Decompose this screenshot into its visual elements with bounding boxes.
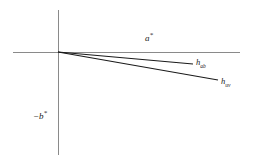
diagram-canvas [0,0,253,165]
hab-label: hab [196,58,206,67]
hue-angle-diagram: a* −b* hab huv [0,0,253,165]
hab-subscript: ab [200,63,206,69]
hab-ray-line [58,52,193,64]
a-star-axis-label: a* [145,34,153,43]
huv-subscript: uv [225,82,230,88]
huv-label: huv [221,77,230,86]
a-star-asterisk: * [150,31,154,39]
b-star-asterisk: * [44,109,48,117]
negative-b-star-axis-label: −b* [33,112,47,121]
huv-ray-line [58,52,218,80]
